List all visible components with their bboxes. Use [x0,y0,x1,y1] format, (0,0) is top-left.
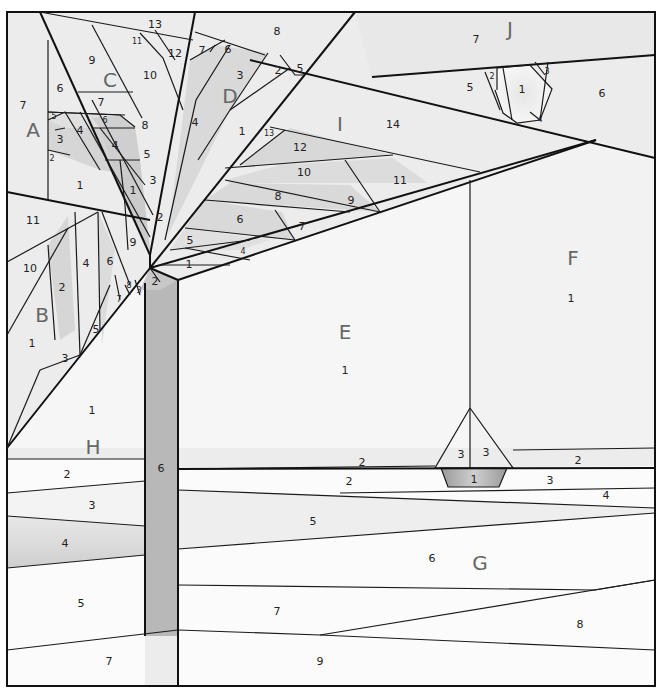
section-label-c: C [103,68,117,92]
piece-b-9: 9 [130,236,137,249]
piece-b-2: 2 [59,281,66,294]
piece-h-1: 1 [89,404,96,417]
piece-d-5: 5 [297,62,304,75]
piece-i-12: 12 [293,141,307,154]
section-label-f: F [567,246,579,270]
section-f-fill [470,140,655,448]
piece-i-8: 8 [275,190,282,203]
piece-g-4: 4 [603,489,610,502]
section-label-j: J [505,17,513,41]
piece-c-2: 2 [157,211,164,224]
piece-i-13: 13 [264,129,274,138]
section-label-g: G [472,551,488,575]
piece-i-14: 14 [386,118,400,131]
piece-h-4: 4 [62,537,69,550]
piece-g-6: 6 [429,552,436,565]
piece-i-6: 6 [237,213,244,226]
piece-j-6: 6 [599,87,606,100]
piece-i-10: 10 [297,166,311,179]
piece-b-6: 6 [107,255,114,268]
piece-j-3: 3 [544,67,549,76]
piece-g-3: 3 [547,474,554,487]
piece-j-5: 5 [467,81,474,94]
piece-a-7: 7 [20,99,27,112]
piece-d-7: 7 [199,44,206,57]
section-label-h: H [85,435,100,459]
piece-i-9: 9 [348,194,355,207]
piece-c-13: 13 [148,18,162,31]
piece-b-3: 3 [62,352,69,365]
piece-a-5: 5 [51,112,56,121]
piece-b-7: 7 [116,295,121,304]
piece-d-3: 3 [237,69,244,82]
piece-i-1: 1 [186,258,193,271]
piece-c-7: 7 [98,96,105,109]
piece-c-4: 4 [112,139,119,152]
piece-g-2-right: 2 [575,454,582,467]
piece-g-7: 7 [274,605,281,618]
piece-c-6: 6 [102,116,107,125]
piece-i-7: 7 [299,220,306,233]
piece-g-5: 5 [310,515,317,528]
piece-i-4: 4 [240,247,245,256]
piece-g-8: 8 [577,618,584,631]
piece-c-10: 10 [143,69,157,82]
piece-f-1: 1 [568,292,575,305]
piece-c-3: 3 [150,174,157,187]
piece-a-6: 6 [57,82,64,95]
piece-b-8: 8 [126,281,131,290]
piece-c-9: 9 [89,54,96,67]
piece-e-1: 1 [342,364,349,377]
piece-i-2: 2 [152,275,159,288]
piece-g-1: 1 [471,473,478,486]
piece-j-7: 7 [473,33,480,46]
piece-sail-right: 3 [483,446,490,459]
piece-h-3: 3 [89,499,96,512]
piece-h-2: 2 [64,468,71,481]
piece-g-2-upper: 2 [359,456,366,469]
piece-c-11: 11 [132,37,142,46]
piece-d-6: 6 [225,43,232,56]
section-label-i: I [337,112,343,136]
piece-c-12: 12 [168,47,182,60]
piece-d-4: 4 [192,116,199,129]
piece-j-2: 2 [489,72,494,81]
piece-d-8: 8 [274,25,281,38]
piece-h-7: 7 [106,655,113,668]
section-label-d: D [222,84,237,108]
quilt-pattern-diagram: A B C D E F G H I J 1 2 3 4 5 6 7 1 2 3 … [0,0,660,698]
piece-j-1: 1 [519,83,526,96]
piece-b-1: 1 [29,337,36,350]
trunk-fill [145,280,178,636]
piece-c-1: 1 [130,184,137,197]
section-label-e: E [339,320,352,344]
piece-j-4: 4 [537,115,542,124]
section-label-b: B [35,303,49,327]
piece-h-5: 5 [78,597,85,610]
piece-c-8: 8 [142,119,149,132]
piece-c-5: 5 [144,148,151,161]
piece-a-4: 4 [77,124,84,137]
piece-i-11: 11 [393,174,407,187]
pattern-svg: A B C D E F G H I J 1 2 3 4 5 6 7 1 2 3 … [0,0,660,698]
piece-b-10: 10 [23,262,37,275]
piece-d-2: 2 [275,64,282,77]
piece-b-5: 5 [93,323,100,336]
piece-g-9: 9 [317,655,324,668]
piece-a-2: 2 [49,154,54,163]
piece-b-11: 11 [26,214,40,227]
piece-i-5: 5 [187,234,194,247]
piece-h-6: 6 [158,462,165,475]
piece-b-4: 4 [83,257,90,270]
piece-b-3b: 3 [136,286,141,295]
piece-a-3: 3 [57,133,64,146]
piece-a-1: 1 [77,179,84,192]
piece-g-2: 2 [346,475,353,488]
piece-d-1: 1 [239,125,246,138]
piece-sail-left: 3 [458,448,465,461]
section-label-a: A [26,118,40,142]
